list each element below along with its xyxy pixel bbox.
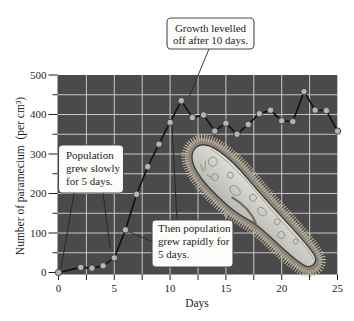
data-point <box>133 191 139 197</box>
callout-line: off after 10 days. <box>173 34 248 46</box>
data-point <box>178 97 184 103</box>
callout-line: 5 days. <box>158 248 189 260</box>
callout-grew-rapidly: Then population grew rapidly for 5 days. <box>152 220 233 267</box>
y-tick-label: 100 <box>30 227 47 239</box>
x-tick-label: 0 <box>56 282 62 294</box>
data-point <box>167 119 173 125</box>
data-point <box>245 121 251 127</box>
data-point <box>234 131 240 137</box>
data-point <box>100 263 106 269</box>
data-point <box>122 227 128 233</box>
data-point <box>279 118 285 124</box>
data-point <box>267 107 273 113</box>
y-tick-label: 200 <box>30 187 47 199</box>
data-point <box>78 264 84 270</box>
callout-line: grew slowly <box>66 162 121 174</box>
population-growth-chart: 01002003004005000510152025 Growth levell… <box>0 0 354 321</box>
x-tick-label: 5 <box>112 282 118 294</box>
data-point <box>145 163 151 169</box>
x-tick-label: 10 <box>165 282 177 294</box>
data-point <box>55 269 61 275</box>
data-point <box>323 107 329 113</box>
x-tick-label: 15 <box>220 282 232 294</box>
data-point <box>256 111 262 117</box>
data-point <box>212 128 218 134</box>
callout-growth-levelled: Growth levelled off after 10 days. <box>167 18 254 49</box>
y-tick-label: 500 <box>30 69 47 81</box>
x-tick-label: 20 <box>276 282 288 294</box>
callout-line: Then population <box>158 222 231 234</box>
x-axis-label: Days <box>185 297 209 310</box>
data-point <box>156 141 162 147</box>
x-tick-label: 25 <box>332 282 344 294</box>
callout-line: for 5 days. <box>66 175 113 187</box>
data-point <box>223 120 229 126</box>
y-tick-label: 400 <box>30 108 47 120</box>
callout-grew-slowly: Population grew slowly for 5 days. <box>59 145 124 193</box>
data-point <box>290 118 296 124</box>
data-point <box>301 88 307 94</box>
y-tick-label: 300 <box>30 148 47 160</box>
data-point <box>334 128 340 134</box>
callout-line: Population <box>66 149 114 161</box>
data-point <box>200 112 206 118</box>
data-point <box>89 265 95 271</box>
y-tick-label: 0 <box>41 266 47 278</box>
callout-line: Growth levelled <box>175 22 247 34</box>
data-point <box>312 107 318 113</box>
callout-line: grew rapidly for <box>158 235 230 247</box>
data-point <box>111 255 117 261</box>
data-point <box>189 114 195 120</box>
y-axis-label: Number of paramecium (per cm³) <box>14 97 27 255</box>
